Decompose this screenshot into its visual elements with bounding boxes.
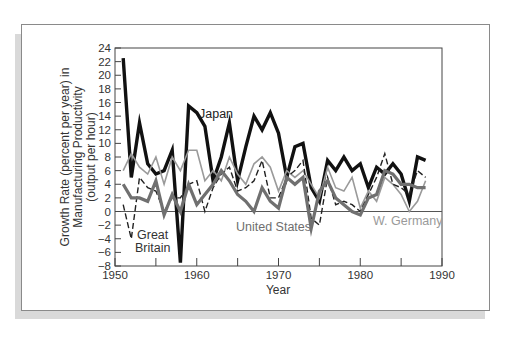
y-tick-label: 16 <box>98 97 111 109</box>
y-axis-title-line3: (output per hour) <box>84 112 98 201</box>
y-tick-label: −4 <box>98 233 112 245</box>
x-tick-label: 1950 <box>102 269 128 281</box>
x-tick-label: 1960 <box>184 269 210 281</box>
y-tick-label: 6 <box>105 165 111 177</box>
y-tick-label: 10 <box>98 137 111 149</box>
y-axis-title-line2: Manufacturing Productivity <box>71 86 85 227</box>
y-tick-label: 20 <box>98 69 111 81</box>
label-great-britain-line2: Britain <box>135 241 170 255</box>
y-tick-label: 14 <box>98 110 111 122</box>
y-axis-title-line1: Growth Rate (percent per year) in <box>58 68 72 247</box>
y-tick-label: −6 <box>98 246 111 258</box>
x-tick-label: 1990 <box>429 269 455 281</box>
y-axis: 242220181614121086420−2−4−6−8 <box>98 42 121 272</box>
x-tick-label: 1980 <box>347 269 373 281</box>
y-tick-label: −2 <box>98 219 111 231</box>
y-tick-label: 2 <box>105 192 111 204</box>
y-tick-label: 12 <box>98 124 111 136</box>
label-w-germany: W. Germany <box>373 214 443 228</box>
x-axis: 19501960197019801990 <box>102 258 455 281</box>
y-axis-title: Growth Rate (percent per year) in Manufa… <box>58 68 98 247</box>
y-tick-label: 8 <box>105 151 111 163</box>
y-tick-label: 4 <box>105 178 112 190</box>
y-tick-label: 24 <box>98 42 111 54</box>
y-tick-label: 18 <box>98 83 111 95</box>
x-axis-title: Year <box>266 283 290 297</box>
x-tick-label: 1970 <box>266 269 292 281</box>
label-great-britain-line1: Great <box>137 228 169 242</box>
label-japan: Japan <box>199 107 233 121</box>
label-united-states: United States <box>236 220 311 234</box>
line-chart: 242220181614121086420−2−4−6−8 1950196019… <box>0 0 514 338</box>
y-tick-label: 0 <box>105 206 111 218</box>
y-tick-label: 22 <box>98 56 111 68</box>
